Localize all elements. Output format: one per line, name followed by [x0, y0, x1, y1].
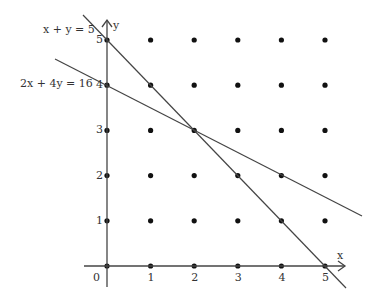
lattice-point [322, 83, 327, 88]
lattice-point [235, 218, 240, 223]
lattice-point [235, 83, 240, 88]
x-tick-label: 3 [235, 272, 242, 283]
x-tick-label: 2 [191, 272, 198, 283]
lattice-point [192, 83, 197, 88]
x-axis-label: x [337, 250, 343, 261]
lattice-point [279, 128, 284, 133]
lattice-point [192, 173, 197, 178]
lattice-point [148, 173, 153, 178]
lattice-point [279, 83, 284, 88]
lattice-point [322, 218, 327, 223]
line2-label: 2x + 4y = 16 [20, 78, 93, 89]
x-tick-label: 4 [278, 272, 285, 283]
y-tick-label: 2 [96, 170, 103, 181]
lattice-point [322, 37, 327, 42]
lattice-point [148, 218, 153, 223]
line1-label: x + y = 5 [43, 24, 95, 35]
lattice-point [235, 37, 240, 42]
chart-canvas [0, 0, 382, 304]
lattice-point [322, 128, 327, 133]
x-tick-label: 5 [322, 272, 329, 283]
lattice-point [148, 128, 153, 133]
lattice-point [235, 128, 240, 133]
y-tick-label: 4 [96, 79, 103, 90]
y-axis-label: y [113, 20, 119, 31]
lattice-point [192, 37, 197, 42]
x-tick-label: 0 [93, 272, 100, 283]
y-tick-label: 3 [96, 124, 103, 135]
y-tick-label: 5 [96, 34, 103, 45]
line-x-plus-y-eq-5 [83, 15, 346, 288]
lattice-point [148, 37, 153, 42]
lattice-point [279, 37, 284, 42]
x-tick-label: 1 [148, 272, 155, 283]
lattice-point [322, 173, 327, 178]
lattice-point [192, 218, 197, 223]
y-tick-label: 1 [96, 215, 103, 226]
